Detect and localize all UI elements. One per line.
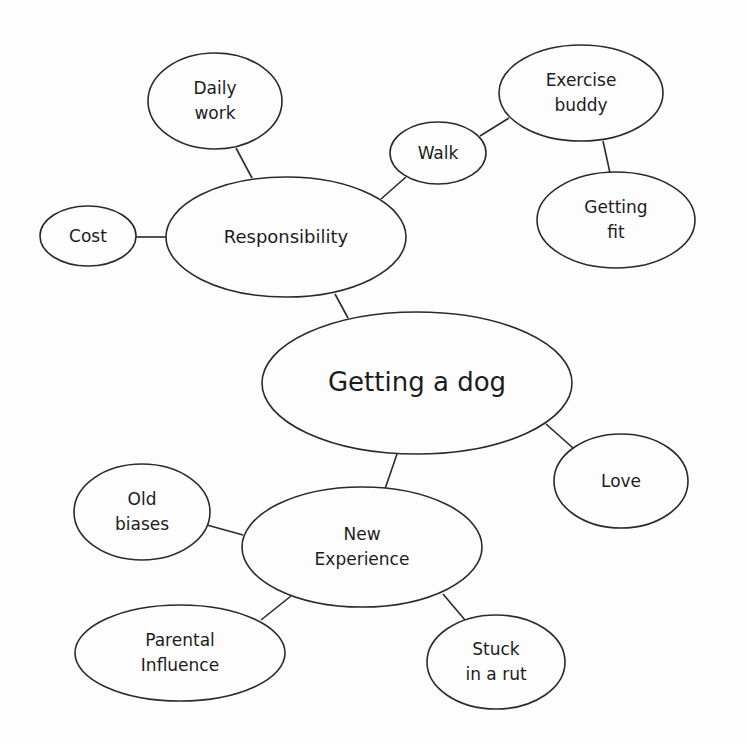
node-label-old-biases: Oldbiases	[115, 487, 169, 536]
node-label-daily-work: Dailywork	[193, 76, 236, 125]
node-label-line: fit	[584, 220, 647, 245]
node-label-line: Daily	[193, 76, 236, 101]
node-label-stuck-in-a-rut: Stuckin a rut	[465, 637, 526, 686]
node-label-line: work	[193, 101, 236, 126]
node-label-center: Getting a dog	[328, 364, 506, 402]
node-label-cost: Cost	[69, 224, 107, 249]
node-label-line: Love	[601, 469, 641, 494]
node-label-walk: Walk	[418, 141, 459, 166]
node-label-exercise-buddy: Exercisebuddy	[546, 68, 617, 117]
node-label-line: Getting a dog	[328, 364, 506, 402]
node-label-line: Experience	[315, 547, 410, 572]
node-label-responsibility: Responsibility	[224, 224, 349, 250]
node-label-line: Getting	[584, 195, 647, 220]
node-label-line: in a rut	[465, 662, 526, 687]
node-label-line: Stuck	[465, 637, 526, 662]
node-label-line: Cost	[69, 224, 107, 249]
node-label-getting-fit: Gettingfit	[584, 195, 647, 244]
node-label-line: biases	[115, 512, 169, 537]
node-label-line: New	[315, 522, 410, 547]
node-label-line: Influence	[141, 653, 219, 678]
node-label-line: Responsibility	[224, 224, 349, 250]
node-label-line: Parental	[141, 628, 219, 653]
mind-map: Getting a dogResponsibilityDailyworkCost…	[0, 0, 748, 743]
node-label-line: Walk	[418, 141, 459, 166]
node-label-line: Exercise	[546, 68, 617, 93]
node-label-line: buddy	[546, 93, 617, 118]
node-label-new-experience: NewExperience	[315, 522, 410, 571]
node-label-love: Love	[601, 469, 641, 494]
node-label-line: Old	[115, 487, 169, 512]
node-label-parental-influence: ParentalInfluence	[141, 628, 219, 677]
